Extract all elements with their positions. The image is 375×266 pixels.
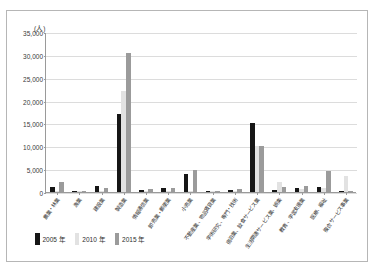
- bar: [326, 171, 331, 192]
- bar: [171, 188, 176, 192]
- chart-legend: 2005 年2010 年2015 年: [35, 233, 145, 245]
- bar-cluster: [90, 32, 112, 192]
- bar-clusters: [46, 32, 357, 192]
- x-label-slot: 卸売業・郵便業: [156, 195, 178, 257]
- y-axis-tick-label: 30,000: [23, 52, 43, 59]
- bar-cluster: [157, 32, 179, 192]
- legend-item: 2015 年: [115, 233, 146, 245]
- bar: [59, 182, 64, 192]
- chart-frame: (人) 05,00010,00015,00020,00025,00030,000…: [6, 10, 368, 262]
- legend-swatch: [75, 233, 80, 245]
- bar: [282, 187, 287, 192]
- bar-cluster: [268, 32, 290, 192]
- x-label-slot: 製造業: [112, 195, 134, 257]
- bar: [193, 170, 198, 192]
- x-axis-category-label: 小売業: [181, 197, 195, 213]
- bar: [237, 189, 242, 192]
- bar: [344, 176, 349, 192]
- legend-label: 2015 年: [122, 234, 145, 244]
- legend-item: 2010 年: [75, 233, 106, 245]
- bar: [104, 188, 109, 192]
- y-axis-tick-label: 5,000: [27, 167, 43, 174]
- legend-label: 2005 年: [43, 234, 66, 244]
- x-axis-category-label: 農業・林業: [42, 197, 61, 221]
- x-axis-category-label: 情報通信業: [131, 197, 150, 221]
- y-axis-tick-mark: [44, 193, 46, 194]
- x-label-slot: 複合サービス事業: [334, 195, 356, 257]
- bar-cluster: [246, 32, 268, 192]
- chart-figure: (人) 05,00010,00015,00020,00025,00030,000…: [0, 0, 375, 266]
- y-axis-tick-label: 20,000: [23, 98, 43, 105]
- y-axis-tick-label: 35,000: [23, 30, 43, 37]
- bar: [348, 191, 353, 192]
- x-label-slot: 建設業: [89, 195, 111, 257]
- bar: [215, 191, 220, 192]
- bar-cluster: [202, 32, 224, 192]
- bar-cluster: [290, 32, 312, 192]
- bar-cluster: [179, 32, 201, 192]
- plot-wrapper: (人) 05,00010,00015,00020,00025,00030,000…: [7, 11, 369, 263]
- x-axis-category-label: 建設業: [92, 197, 106, 213]
- bar: [304, 186, 309, 192]
- legend-swatch: [115, 233, 120, 245]
- bar: [82, 191, 87, 192]
- bar: [184, 174, 189, 192]
- bar: [126, 53, 131, 192]
- x-label-slot: 漁業: [67, 195, 89, 257]
- y-axis-tick-label: 15,000: [23, 121, 43, 128]
- y-axis-tick-label: 0: [39, 190, 43, 197]
- gridline: 0: [46, 193, 357, 194]
- legend-swatch: [35, 233, 40, 245]
- bar-cluster: [135, 32, 157, 192]
- bar-cluster: [335, 32, 357, 192]
- bar-cluster: [113, 32, 135, 192]
- y-axis-tick-label: 25,000: [23, 75, 43, 82]
- x-axis-category-label: 製造業: [114, 197, 128, 213]
- x-axis-labels: 農業・林業漁業建設業製造業情報通信業卸売業・郵便業小売業不動産業、物品賃貸業学術…: [45, 195, 356, 257]
- cropped-title-band: [0, 0, 375, 10]
- bar: [148, 189, 153, 192]
- bar-cluster: [46, 32, 68, 192]
- x-axis-category-label: 医療、福祉: [308, 197, 327, 221]
- x-axis-category-label: 漁業: [73, 197, 84, 209]
- bar-cluster: [313, 32, 335, 192]
- y-axis-tick-label: 10,000: [23, 144, 43, 151]
- plot-area: 05,00010,00015,00020,00025,00030,00035,0…: [45, 33, 356, 193]
- x-label-slot: 教育、学習支援業: [289, 195, 311, 257]
- bar-cluster: [224, 32, 246, 192]
- legend-label: 2010 年: [82, 234, 105, 244]
- bar-cluster: [68, 32, 90, 192]
- bar: [259, 146, 264, 192]
- x-label-slot: 農業・林業: [45, 195, 67, 257]
- legend-item: 2005 年: [35, 233, 66, 245]
